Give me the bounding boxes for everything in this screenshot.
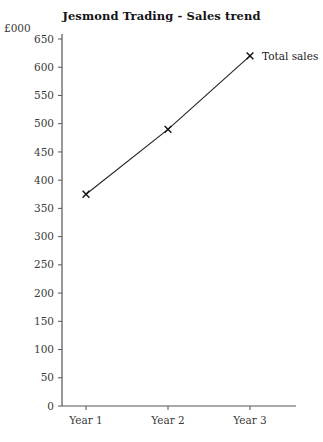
y-tick-label: 200 bbox=[34, 287, 54, 299]
plot-area: 050100150200250300350400450500550600650 … bbox=[0, 0, 323, 442]
x-tick-label: Year 1 bbox=[68, 414, 103, 426]
y-axis-ticks: 050100150200250300350400450500550600650 bbox=[34, 33, 62, 412]
chart-container: Jesmond Trading - Sales trend £000 05010… bbox=[0, 0, 323, 442]
y-tick-label: 500 bbox=[34, 117, 54, 129]
y-tick-label: 50 bbox=[41, 371, 54, 383]
y-tick-label: 400 bbox=[34, 174, 54, 186]
data-point-marker bbox=[83, 191, 90, 198]
series-total-sales bbox=[83, 53, 254, 198]
data-point-marker bbox=[247, 53, 254, 60]
y-tick-label: 0 bbox=[47, 400, 54, 412]
series-inline-label: Total sales bbox=[262, 50, 318, 62]
y-tick-label: 650 bbox=[34, 33, 54, 45]
y-tick-label: 150 bbox=[34, 315, 54, 327]
x-axis-ticks: Year 1Year 2Year 3 bbox=[68, 406, 267, 426]
series-line bbox=[86, 56, 250, 194]
y-tick-label: 100 bbox=[34, 343, 54, 355]
y-tick-label: 250 bbox=[34, 258, 54, 270]
y-tick-label: 450 bbox=[34, 146, 54, 158]
x-tick-label: Year 2 bbox=[150, 414, 185, 426]
y-tick-label: 600 bbox=[34, 61, 54, 73]
x-tick-label: Year 3 bbox=[232, 414, 267, 426]
y-tick-label: 300 bbox=[34, 230, 54, 242]
y-tick-label: 550 bbox=[34, 89, 54, 101]
data-point-marker bbox=[165, 126, 172, 133]
y-tick-label: 350 bbox=[34, 202, 54, 214]
